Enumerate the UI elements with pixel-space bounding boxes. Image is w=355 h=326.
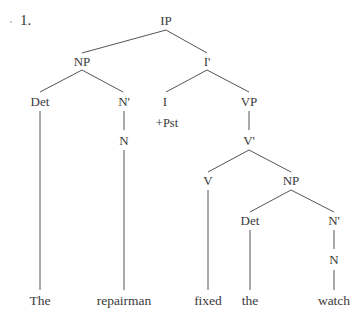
- edge-np-det-obj: [250, 190, 291, 212]
- edge-ip-np: [82, 30, 166, 53]
- node-n-subject: N: [119, 134, 128, 148]
- edge-vbar-np: [249, 150, 291, 172]
- node-vp: VP: [241, 95, 258, 109]
- leaf-watch: watch: [318, 294, 350, 308]
- edge-np-nbar: [82, 70, 123, 92]
- node-i-feature: +Pst: [156, 116, 178, 130]
- leaf-fixed: fixed: [194, 294, 222, 308]
- edge-ip-ibar: [166, 30, 207, 53]
- leaf-the: The: [30, 294, 51, 308]
- node-i: I: [163, 95, 167, 109]
- edge-np-det: [40, 70, 82, 92]
- node-n-object: N: [329, 253, 338, 267]
- edge-vbar-v: [208, 150, 249, 172]
- edge-np-nbar-obj: [291, 190, 334, 212]
- edge-ibar-i: [166, 70, 207, 92]
- leaf-repairman: repairman: [97, 294, 152, 308]
- leaf-the-object: the: [242, 294, 259, 308]
- node-v-bar: V': [243, 134, 255, 148]
- tree-edges: [0, 0, 355, 326]
- node-np-object: NP: [283, 174, 300, 188]
- node-i-bar: I': [204, 55, 211, 69]
- node-n-bar-subject: N': [118, 95, 130, 109]
- edge-ibar-vp: [207, 70, 249, 92]
- node-np-subject: NP: [74, 55, 91, 69]
- node-n-bar-object: N': [328, 214, 340, 228]
- node-v: V: [203, 174, 212, 188]
- node-det-subject: Det: [31, 95, 50, 109]
- node-ip: IP: [160, 14, 172, 28]
- node-det-object: Det: [241, 214, 260, 228]
